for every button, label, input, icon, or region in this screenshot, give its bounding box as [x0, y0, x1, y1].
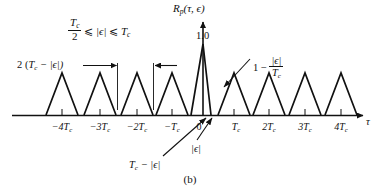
y-axis-label-args: (τ, ϵ)	[183, 2, 204, 14]
x-tick-label-2tc: 2Tc	[262, 122, 276, 134]
figure-container: Tc 2 ⩽ |ϵ| ⩽ Tc 2 (Tc − |ϵ|) Rp(τ, ϵ) 1.…	[0, 0, 380, 192]
waveform-triangles	[46, 44, 357, 115]
x-tick-label-zero: 0	[197, 122, 202, 132]
x-tick-label-minus-tc: −Tc	[164, 122, 179, 134]
slope-numerator: |ϵ|	[269, 55, 283, 67]
span-prefix: 2 (	[17, 59, 28, 70]
x-axis-label: τ	[366, 117, 370, 128]
x-tick-label-minus-4tc: −4Tc	[52, 122, 72, 134]
slope-fraction: |ϵ| Tc	[269, 55, 283, 80]
condition-relation-left: ⩽	[84, 25, 93, 37]
peak-value-label: 1.0	[196, 31, 209, 42]
condition-fraction: Tc 2	[68, 17, 81, 42]
base-note-eps: |ϵ|	[191, 144, 201, 155]
condition-numerator: Tc	[68, 17, 81, 31]
span-width-label: 2 (Tc − |ϵ|)	[17, 60, 63, 72]
slope-lead: 1 −	[253, 62, 267, 73]
base-note-rest: − |ϵ|	[138, 159, 160, 170]
condition-right-sub: c	[127, 30, 130, 39]
x-tick-label-minus-2tc: −2Tc	[127, 122, 147, 134]
condition-middle: |ϵ|	[96, 25, 106, 37]
figure-caption: (b)	[0, 174, 380, 185]
base-note-tc-minus-eps: Tc − |ϵ|	[129, 160, 160, 172]
condition-note: Tc 2 ⩽ |ϵ| ⩽ Tc	[68, 17, 130, 42]
y-axis-label: Rp(τ, ϵ)	[173, 3, 205, 16]
condition-denominator: 2	[68, 31, 81, 43]
autocorrelation-plot	[0, 0, 380, 192]
x-tick-label-minus-3tc: −3Tc	[90, 122, 110, 134]
condition-relation-right: ⩽	[109, 25, 118, 37]
y-axis-label-main: R	[173, 2, 180, 14]
x-tick-label-tc: Tc	[232, 122, 241, 134]
x-tick-label-4tc: 4Tc	[334, 122, 348, 134]
slope-denominator: Tc	[269, 67, 283, 80]
span-suffix: − |ϵ|)	[37, 59, 63, 70]
x-tick-label-3tc: 3Tc	[298, 122, 312, 134]
slope-formula-label: 1 − |ϵ| Tc	[253, 55, 283, 80]
x-axis-ticks	[62, 109, 341, 116]
